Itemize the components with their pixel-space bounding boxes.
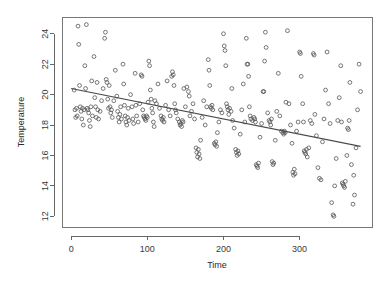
- x-axis-tick-label: 0: [69, 244, 74, 254]
- y-axis-tick-label: 20: [40, 90, 50, 100]
- y-axis-tick-label: 12: [40, 211, 50, 221]
- x-axis-tick-label: 100: [140, 244, 155, 254]
- y-axis-tick-label: 24: [40, 29, 50, 39]
- scatter-plot-figure: 0100200300 12141618202224 TimeTemperatur…: [0, 0, 392, 284]
- x-axis-title: Time: [207, 260, 227, 270]
- plot-background: [0, 0, 392, 284]
- y-axis-tick-label: 22: [40, 59, 50, 69]
- plot-canvas: 0100200300 12141618202224 TimeTemperatur…: [0, 0, 392, 284]
- y-axis-tick-label: 18: [40, 120, 50, 130]
- x-axis-tick-label: 200: [216, 244, 231, 254]
- x-axis-tick-label: 300: [292, 244, 307, 254]
- y-axis-tick-label: 14: [40, 181, 50, 191]
- y-axis-title: Temperature: [16, 97, 26, 148]
- y-axis-tick-label: 16: [40, 150, 50, 160]
